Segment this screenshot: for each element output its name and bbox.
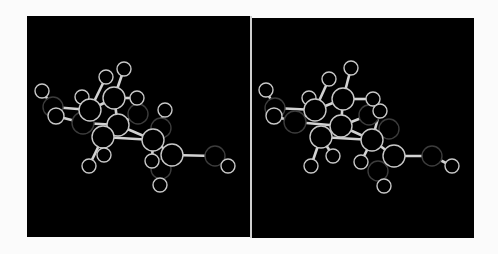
atom	[383, 145, 405, 167]
molecule-model-left	[27, 16, 250, 237]
atom	[354, 155, 368, 169]
atom	[284, 111, 306, 133]
atom	[97, 148, 111, 162]
atom	[332, 88, 354, 110]
atom	[221, 159, 235, 173]
atom	[310, 126, 332, 148]
atom	[142, 129, 164, 151]
atom	[82, 159, 96, 173]
stereo-view-left	[27, 16, 250, 237]
atom	[48, 108, 64, 124]
atom	[326, 149, 340, 163]
atom	[266, 108, 282, 124]
atom	[153, 178, 167, 192]
atom	[422, 146, 442, 166]
stereo-view-right	[252, 18, 474, 238]
atom	[145, 154, 159, 168]
atom	[373, 104, 387, 118]
atom	[117, 62, 131, 76]
atom	[103, 87, 125, 109]
atom	[445, 159, 459, 173]
atom	[304, 159, 318, 173]
atom	[161, 144, 183, 166]
atom	[330, 115, 352, 137]
atom	[130, 91, 144, 105]
atom	[304, 99, 326, 121]
atom	[322, 72, 336, 86]
atom	[344, 61, 358, 75]
atom	[128, 104, 148, 124]
atom	[92, 126, 114, 148]
atom	[158, 103, 172, 117]
atom	[259, 83, 273, 97]
atom	[79, 99, 101, 121]
atom	[99, 70, 113, 84]
molecule-model-right	[252, 18, 474, 238]
atom	[368, 161, 388, 181]
atom	[361, 129, 383, 151]
atom	[377, 179, 391, 193]
atom	[35, 84, 49, 98]
